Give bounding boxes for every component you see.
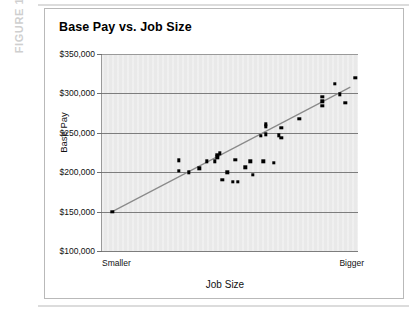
plot-texture	[102, 54, 358, 251]
gridline	[102, 212, 358, 213]
y-axis-tick-label: $300,000	[60, 88, 95, 98]
scatter-point	[320, 100, 323, 103]
gridline	[102, 133, 358, 134]
scatter-point	[221, 178, 224, 181]
scatter-point	[233, 158, 236, 161]
scatter-point	[111, 210, 114, 213]
scatter-point	[218, 152, 221, 155]
page-bottom-rule	[38, 305, 409, 307]
scatter-point	[177, 159, 180, 162]
scatter-point	[272, 161, 275, 164]
figure-page: FIGURE 1-1 Base Pay vs. Job Size Base Pa…	[0, 0, 413, 315]
page-top-rule	[38, 4, 409, 6]
scatter-point	[264, 122, 267, 125]
scatter-point	[333, 82, 336, 85]
figure-number-label: FIGURE 1-1	[13, 0, 25, 55]
scatter-point	[354, 76, 357, 79]
scatter-point	[187, 170, 190, 173]
scatter-point	[226, 170, 229, 173]
x-axis-title: Job Size	[45, 279, 405, 290]
scatter-point	[251, 173, 254, 176]
y-axis-tick-label: $150,000	[60, 207, 95, 217]
x-axis-tick-label-bigger: Bigger	[339, 258, 364, 268]
gridline	[102, 172, 358, 173]
scatter-point	[259, 134, 262, 137]
scatter-point	[213, 159, 216, 162]
plot-area: $350,000$300,000$250,000$200,000$150,000…	[101, 54, 358, 252]
scatter-point	[177, 169, 180, 172]
scatter-point	[297, 117, 300, 120]
trend-line	[102, 54, 358, 251]
scatter-point	[338, 92, 341, 95]
scatter-point	[231, 180, 234, 183]
chart-title: Base Pay vs. Job Size	[59, 20, 192, 34]
scatter-point	[205, 159, 208, 162]
chart-card: Base Pay vs. Job Size Base Pay Job Size …	[44, 8, 404, 299]
y-axis-tick-mark	[97, 251, 102, 252]
y-axis-tick-mark	[97, 212, 102, 213]
y-axis-tick-label: $350,000	[60, 49, 95, 59]
scatter-point	[264, 133, 267, 136]
y-axis-tick-mark	[97, 93, 102, 94]
scatter-point	[320, 104, 323, 107]
scatter-point	[343, 101, 346, 104]
scatter-point	[320, 95, 323, 98]
scatter-point	[279, 126, 282, 129]
scatter-point	[244, 166, 247, 169]
scatter-point	[249, 159, 252, 162]
scatter-point	[198, 167, 201, 170]
gridline	[102, 54, 358, 55]
x-axis-tick-label-smaller: Smaller	[102, 258, 131, 268]
y-axis-tick-mark	[97, 172, 102, 173]
gridline	[102, 251, 358, 252]
y-axis-tick-mark	[97, 54, 102, 55]
y-axis-tick-label: $250,000	[60, 128, 95, 138]
y-axis-tick-label: $200,000	[60, 167, 95, 177]
y-axis-tick-mark	[97, 133, 102, 134]
scatter-point	[279, 136, 282, 139]
scatter-point	[262, 159, 265, 162]
scatter-point	[236, 180, 239, 183]
y-axis-tick-label: $100,000	[60, 246, 95, 256]
